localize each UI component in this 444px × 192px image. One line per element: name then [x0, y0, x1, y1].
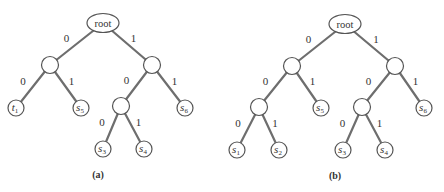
- leaf-index: 3: [102, 148, 106, 156]
- edge-bit-label: 1: [69, 75, 75, 87]
- root-label: root: [337, 19, 354, 30]
- tree-a: 01010101roott1s5s6s3s4(a): [8, 14, 193, 182]
- internal-node: [354, 99, 371, 116]
- internal-node: [144, 57, 161, 74]
- leaf-index: 3: [342, 149, 346, 157]
- leaf-index: 5: [80, 107, 84, 115]
- internal-node: [42, 57, 59, 74]
- edge-bit-label: 0: [235, 117, 241, 129]
- edge-bit-label: 0: [64, 32, 70, 44]
- tree-b: 0101010101roots5s6s1s2s3s4(b): [229, 15, 432, 183]
- edge-bit-label: 0: [263, 75, 269, 87]
- edge-bit-label: 1: [136, 116, 142, 128]
- leaf-index: 1: [236, 149, 240, 157]
- edge-bit-label: 1: [131, 32, 137, 44]
- root-label: root: [95, 18, 112, 29]
- internal-node: [387, 58, 404, 75]
- leaf-index: 6: [184, 107, 188, 115]
- edge-bit-label: 1: [377, 117, 383, 129]
- internal-node: [284, 58, 301, 75]
- leaf-index: 2: [278, 149, 282, 157]
- internal-node: [251, 99, 268, 116]
- leaf-index: 4: [384, 149, 388, 157]
- edge-bit-label: 0: [366, 75, 372, 87]
- internal-node: [113, 98, 130, 115]
- edge-bit-label: 1: [272, 117, 278, 129]
- code-trees-figure: 01010101roott1s5s6s3s4(a) 0101010101root…: [0, 0, 444, 192]
- figure-caption: (b): [329, 170, 341, 182]
- edge-bit-label: 0: [340, 117, 346, 129]
- leaf-index: 1: [15, 107, 19, 115]
- figure-caption: (a): [92, 169, 104, 181]
- leaf-index: 4: [143, 148, 147, 156]
- edge-bit-label: 1: [373, 33, 379, 45]
- edge-bit-label: 0: [124, 74, 130, 86]
- edge-bit-label: 1: [172, 75, 178, 87]
- leaf-index: 6: [423, 107, 427, 115]
- edge-bit-label: 0: [20, 75, 26, 87]
- edge-bit-label: 1: [310, 75, 316, 87]
- leaf-index: 5: [320, 107, 324, 115]
- edge-bit-label: 1: [413, 75, 419, 87]
- edge-bit-label: 0: [99, 116, 105, 128]
- edge-bit-label: 0: [306, 33, 312, 45]
